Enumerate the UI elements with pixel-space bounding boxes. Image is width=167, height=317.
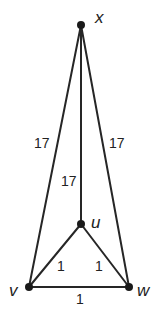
edge-weight-u-v: 1 <box>57 258 65 274</box>
node-u <box>77 220 85 228</box>
edge-weight-x-v: 17 <box>34 135 50 151</box>
edge-x-v <box>29 25 81 287</box>
node-w <box>125 283 133 291</box>
edge-weight-v-w: 1 <box>76 291 84 307</box>
edge-u-w <box>81 224 129 287</box>
node-label-v: v <box>9 281 19 300</box>
edge-weight-u-w: 1 <box>95 258 103 274</box>
node-v <box>25 283 33 291</box>
node-label-u: u <box>91 213 101 232</box>
node-label-x: x <box>94 8 104 27</box>
edge-x-w <box>81 25 129 287</box>
graph-diagram: 17 17 17 1 1 1 x u v w <box>0 0 167 317</box>
node-x <box>77 21 85 29</box>
node-label-w: w <box>137 281 151 300</box>
edge-weight-x-u: 17 <box>61 173 77 189</box>
edge-u-v <box>29 224 81 287</box>
edges <box>29 25 129 287</box>
nodes <box>25 21 133 291</box>
edge-weight-x-w: 17 <box>109 135 125 151</box>
